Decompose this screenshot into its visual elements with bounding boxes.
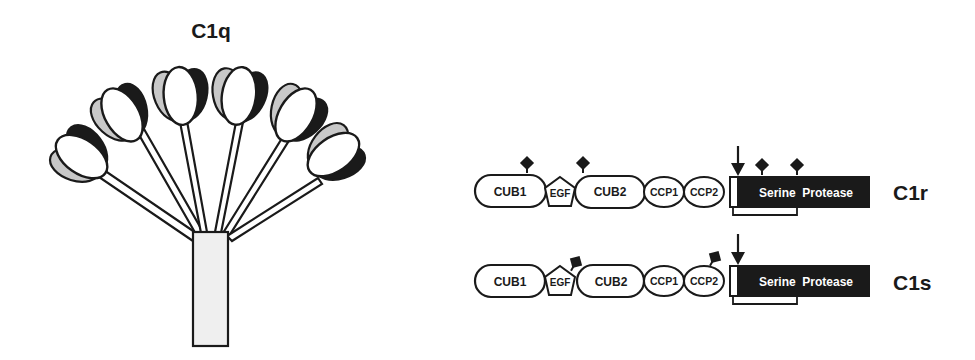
- domain-egf: EGF: [550, 188, 571, 199]
- c1q-stalk: [193, 232, 228, 346]
- cleavage-arrow-icon: [731, 146, 745, 176]
- c1r-label: C1r: [893, 181, 928, 204]
- domain-cub2: CUB2: [594, 185, 627, 199]
- domain-ccp2: CCP2: [690, 186, 718, 198]
- glycosylation-icon: [520, 156, 534, 173]
- domain-cub1: CUB1: [494, 275, 527, 289]
- protease-label: Serine Protease: [759, 186, 853, 200]
- c1r-domain-map: CUB1 EGF CUB2 CCP1 CCP2 Serine Protease …: [475, 146, 928, 215]
- glycosylation-icon: [576, 156, 590, 173]
- domain-egf: EGF: [550, 277, 571, 288]
- c1q-title: C1q: [191, 19, 231, 42]
- domain-cub2: CUB2: [595, 275, 628, 289]
- c1s-domain-map: CUB1 EGF CUB2 CCP1 CCP2 Serine Protease …: [475, 234, 932, 304]
- domain-cub1: CUB1: [494, 185, 527, 199]
- c1q-head-3: [145, 63, 217, 128]
- c1-complex-diagram: C1q CUB1 EGF CUB2 CCP1: [0, 0, 975, 360]
- domain-ccp1: CCP1: [650, 186, 678, 198]
- protease-label: Serine Protease: [759, 275, 853, 289]
- domain-ccp1: CCP1: [650, 275, 678, 287]
- c1s-label: C1s: [893, 271, 932, 294]
- glycosylation-icon: [755, 158, 769, 175]
- cleavage-arrow-icon: [731, 234, 745, 265]
- c1q-globular-heads: [38, 61, 378, 200]
- domain-ccp2: CCP2: [690, 275, 718, 287]
- c1q-head-4: [202, 61, 276, 129]
- glycosylation-icon: [790, 158, 804, 175]
